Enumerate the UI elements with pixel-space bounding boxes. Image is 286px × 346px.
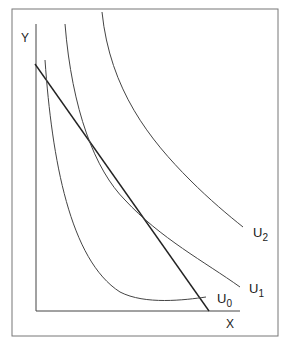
indifference-curve-u0 bbox=[45, 60, 206, 301]
u0-label: U0 bbox=[217, 291, 232, 309]
x-axis-label: X bbox=[226, 317, 234, 331]
u1-label: U1 bbox=[249, 281, 264, 299]
outer-frame bbox=[12, 9, 278, 336]
u2-label: U2 bbox=[253, 225, 268, 243]
indifference-curve-u1 bbox=[65, 24, 240, 287]
budget-line bbox=[35, 64, 209, 311]
y-axis-label: Y bbox=[21, 31, 29, 45]
indifference-curve-u2 bbox=[102, 12, 243, 227]
diagram-canvas: Y X U0 U1 U2 bbox=[0, 0, 286, 346]
